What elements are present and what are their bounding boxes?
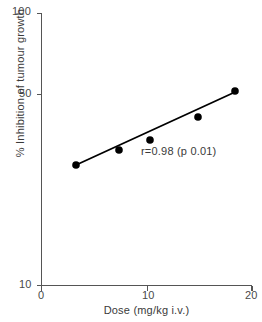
data-point <box>115 146 123 154</box>
chart-figure: 100 50 10 0 10 20 Dose (mg/kg i.v.) % In… <box>0 0 262 322</box>
y-axis-title: % Inhibition of tumour growth <box>15 0 26 168</box>
x-tick-label-0: 0 <box>38 290 44 301</box>
x-axis-title: Dose (mg/kg i.v.) <box>41 305 252 316</box>
x-tick-label-20: 20 <box>245 290 258 301</box>
x-tick-label-10: 10 <box>142 290 155 301</box>
y-axis-title-container: % Inhibition of tumour growth <box>15 0 31 168</box>
data-point <box>146 136 154 144</box>
y-tick-label-10: 10 <box>19 279 32 290</box>
data-point <box>72 161 80 169</box>
correlation-annotation: r=0.98 (p 0.01) <box>141 146 216 157</box>
data-point <box>194 113 202 121</box>
scatter-plot-canvas <box>0 0 262 322</box>
data-point <box>231 87 239 95</box>
